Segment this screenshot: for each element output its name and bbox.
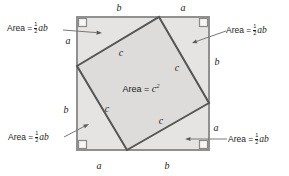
fraction-denominator: 2	[255, 139, 258, 146]
edge-label-left-b: b	[64, 104, 69, 115]
triangle-area-label-bottom-right: Area = 1 2 ab	[228, 133, 269, 146]
edge-label-bottom-a: a	[97, 160, 102, 171]
area-prefix: Area =	[8, 133, 33, 142]
area-prefix: Area =	[7, 24, 32, 33]
hypotenuse-label-bottom-left: c	[105, 103, 110, 114]
one-half-fraction: 1 2	[35, 131, 38, 144]
triangle-area-label-bottom-left: Area = 1 2 ab	[8, 131, 49, 144]
hypotenuse-label-top-right: c	[175, 62, 180, 73]
center-area-exponent: 2	[156, 82, 159, 89]
triangle-area-label-top-left: Area = 1 2 ab	[7, 22, 48, 35]
area-variables: ab	[257, 26, 267, 36]
fraction-denominator: 2	[35, 137, 38, 144]
edge-label-top-a: a	[181, 2, 186, 13]
area-variables: ab	[39, 133, 49, 143]
fraction-denominator: 2	[34, 28, 37, 35]
right-angle-marker-top-left	[79, 19, 87, 27]
hypotenuse-label-bottom-right: c	[159, 115, 164, 126]
hypotenuse-label-top-left: c	[119, 47, 124, 58]
edge-label-right-b: b	[215, 56, 220, 67]
one-half-fraction: 1 2	[255, 133, 258, 146]
one-half-fraction: 1 2	[253, 24, 256, 37]
area-variables: ab	[259, 135, 269, 145]
right-angle-marker-bottom-left	[79, 141, 87, 149]
edge-label-right-a: a	[214, 122, 219, 133]
edge-label-left-a: a	[66, 35, 71, 46]
edge-label-top-b: b	[117, 2, 122, 13]
area-prefix: Area =	[228, 135, 253, 144]
area-variables: ab	[38, 24, 48, 34]
pythagorean-diagram: b a a b b a a b c c c c Area = 1 2 ab Ar…	[0, 0, 289, 176]
fraction-denominator: 2	[253, 30, 256, 37]
one-half-fraction: 1 2	[34, 22, 37, 35]
right-angle-marker-top-right	[200, 19, 208, 27]
triangle-area-label-top-right: Area = 1 2 ab	[226, 24, 267, 37]
edge-label-bottom-b: b	[165, 160, 170, 171]
area-prefix: Area =	[226, 26, 251, 35]
right-angle-marker-bottom-right	[200, 141, 208, 149]
center-area-prefix: Area =	[123, 84, 152, 94]
inner-square-area-label: Area = c2	[103, 82, 179, 94]
